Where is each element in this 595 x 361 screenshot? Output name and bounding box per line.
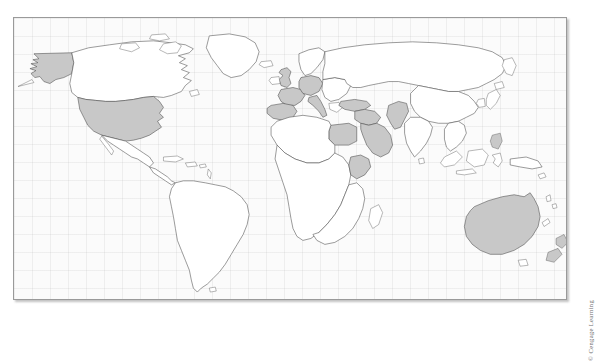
region-somalia [349,155,371,179]
region-java [456,169,476,175]
region-australia [464,193,540,255]
region-borneo [466,149,488,167]
region-lesser-antilles [207,169,211,179]
region-aleutian-islands [18,80,34,87]
region-kamchatka [502,58,516,76]
region-india [405,117,433,157]
region-newfoundland [189,89,199,96]
region-hokkaido [494,82,504,90]
region-germany [299,76,323,96]
region-russia [323,42,506,92]
region-puerto-rico [199,164,206,168]
region-new-caledonia [542,219,550,227]
region-new-zealand-south [546,248,562,262]
copyright-credit: © Cengage Learning [587,300,594,361]
region-ellesmere-island [150,34,170,41]
region-fiji-islands [552,204,557,209]
region-sri-lanka [419,158,425,164]
region-syria-iraq [355,109,381,125]
world-map-svg [14,18,566,299]
region-sumatra [440,151,462,167]
region-united-states [78,96,164,141]
region-united-kingdom [279,68,291,88]
region-iceland [259,61,273,68]
region-italy [308,95,327,117]
region-cuba [163,156,183,162]
region-philippines [490,133,502,149]
region-south-america [169,181,249,292]
region-japan [486,89,500,109]
region-saudi-arabia [361,123,393,157]
region-southeast-asia [444,121,466,151]
region-central-america [150,167,176,185]
region-solomon-islands [538,173,546,179]
region-scandinavia [299,48,325,76]
region-egypt [329,123,357,145]
map-plate [13,17,567,300]
region-alaska [30,53,74,84]
region-sulawesi [492,153,502,167]
region-tasmania [518,259,528,266]
region-madagascar [369,205,383,229]
region-falkland-islands [209,287,216,292]
region-greenland [206,34,259,78]
region-new-zealand-north [556,234,566,248]
copyright-credit-text: © Cengage Learning [587,300,594,361]
region-ireland [269,77,280,85]
region-hispaniola [185,162,197,167]
region-papua-new-guinea [510,157,542,169]
region-vanuatu [546,195,551,202]
